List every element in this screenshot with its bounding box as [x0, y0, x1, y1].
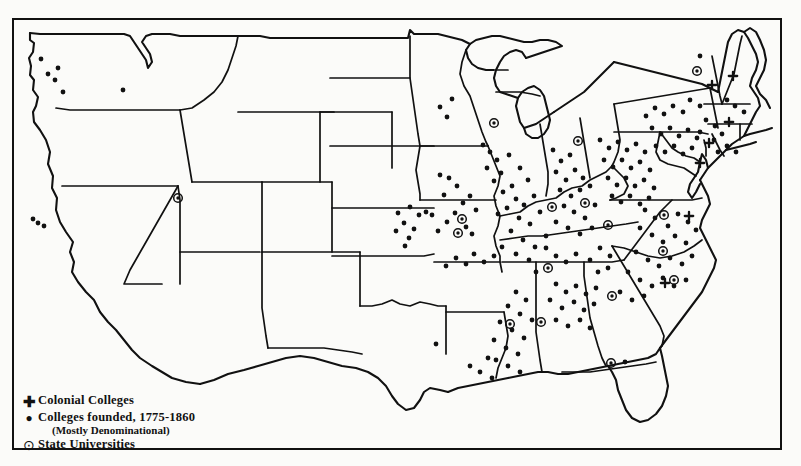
legend-label-colonial: Colonial Colleges: [38, 394, 134, 407]
map-page: ✚ Colonial Colleges • Colleges founded, …: [0, 0, 801, 466]
map-legend: ✚ Colonial Colleges • Colleges founded, …: [20, 394, 195, 454]
dot-marker-icon: •: [20, 409, 38, 428]
legend-item-state-universities: ⊙ State Universities: [20, 438, 195, 452]
legend-item-founded: • Colleges founded, 1775-1860 (Mostly De…: [20, 411, 195, 436]
legend-item-colonial: ✚ Colonial Colleges: [20, 394, 195, 409]
legend-label-state-universities: State Universities: [38, 438, 135, 451]
legend-label-founded: Colleges founded, 1775-1860: [38, 411, 195, 424]
circled-dot-marker-icon: ⊙: [20, 439, 38, 453]
map-border-frame: [12, 18, 782, 450]
legend-sublabel-founded: (Mostly Denominational): [52, 424, 195, 436]
